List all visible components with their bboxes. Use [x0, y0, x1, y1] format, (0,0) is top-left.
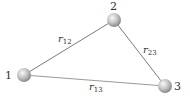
edge-label-r23: r23	[143, 44, 157, 57]
edge-r13	[24, 75, 165, 86]
edge-r12	[24, 20, 114, 75]
sphere-node-2	[107, 13, 121, 27]
triangle-diagram: 1 2 3 r12 r23 r13	[0, 0, 190, 103]
edge-r23	[114, 20, 165, 86]
edge-label-r13: r13	[89, 81, 103, 94]
node-label-1: 1	[5, 69, 12, 82]
edge-label-r12: r12	[58, 33, 72, 46]
sphere-node-3	[158, 79, 172, 93]
node-label-3: 3	[174, 80, 181, 93]
node-label-2: 2	[110, 0, 117, 13]
sphere-node-1	[17, 68, 31, 82]
